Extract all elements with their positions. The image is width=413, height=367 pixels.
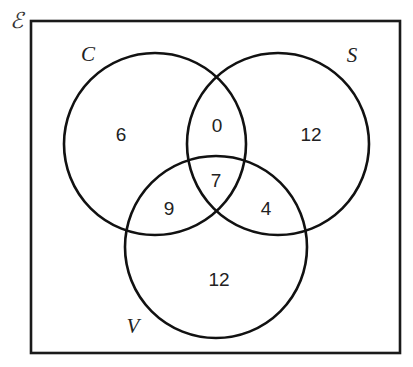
- region-c-only-value: 6: [116, 124, 127, 145]
- set-c-label: C: [81, 42, 96, 66]
- universal-set-label: ℰ: [10, 8, 26, 33]
- region-c-and-v-value: 9: [164, 198, 175, 219]
- set-c-circle: [64, 53, 246, 235]
- region-s-and-v-value: 4: [261, 198, 272, 219]
- region-v-only-value: 12: [208, 269, 229, 290]
- region-s-only-value: 12: [300, 124, 321, 145]
- region-c-s-v-value: 7: [211, 170, 222, 191]
- region-c-and-s-value: 0: [212, 115, 223, 136]
- set-s-circle: [187, 53, 369, 235]
- venn-diagram: ℰ C S V 6 0 12 7 9 4 12: [0, 0, 413, 367]
- set-v-label: V: [127, 314, 142, 338]
- set-s-label: S: [347, 43, 358, 67]
